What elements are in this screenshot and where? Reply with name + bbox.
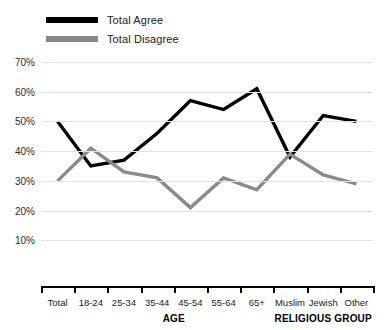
y-axis-tick-label: 30%: [15, 175, 35, 186]
x-axis-label-other: Other: [345, 297, 369, 308]
x-axis-label-25-34: 25-34: [112, 297, 136, 308]
legend-label-total-agree: Total Agree: [107, 14, 163, 26]
x-axis-tick: [273, 286, 275, 293]
x-axis-tick: [174, 286, 176, 293]
y-axis-tick-label: 40%: [15, 146, 35, 157]
x-axis-tick: [41, 286, 43, 293]
x-axis-label-35-44: 35-44: [145, 297, 169, 308]
chart-legend: Total Agree Total Disagree: [46, 10, 179, 48]
gridline: [41, 62, 373, 63]
x-axis-label-total: Total: [48, 297, 68, 308]
x-axis-label-muslim: Muslim: [275, 297, 305, 308]
gridline: [41, 181, 373, 182]
legend-item-total-agree: Total Agree: [46, 10, 179, 29]
x-axis-tick: [107, 286, 109, 293]
gridline: [41, 151, 373, 152]
x-axis-tick: [141, 286, 143, 293]
gridline: [41, 240, 373, 241]
x-axis-label-65plus: 65+: [249, 297, 265, 308]
legend-swatch-total-disagree: [46, 36, 98, 42]
x-axis-tick: [207, 286, 209, 293]
y-axis-tick-label: 50%: [15, 116, 35, 127]
x-axis-label-55-64: 55-64: [211, 297, 235, 308]
series-line-total-disagree: [58, 148, 357, 207]
legend-item-total-disagree: Total Disagree: [46, 29, 179, 48]
y-axis-tick-label: 10%: [15, 235, 35, 246]
x-axis-tick: [240, 286, 242, 293]
x-axis-label-jewish: Jewish: [309, 297, 338, 308]
y-axis-tick-label: 20%: [15, 205, 35, 216]
y-axis-tick-label: 70%: [15, 57, 35, 68]
x-axis-tick: [74, 286, 76, 293]
line-chart: Total Agree Total Disagree 10%20%30%40%5…: [0, 0, 384, 330]
y-axis-tick-label: 60%: [15, 86, 35, 97]
x-axis-tick: [307, 286, 309, 293]
x-axis-label-18-24: 18-24: [79, 297, 103, 308]
x-axis-tick: [340, 286, 342, 293]
gridline: [41, 121, 373, 122]
x-axis-label-45-54: 45-54: [178, 297, 202, 308]
plot-area: 10%20%30%40%50%60%70%: [41, 62, 373, 270]
legend-label-total-disagree: Total Disagree: [107, 33, 179, 45]
legend-swatch-total-agree: [46, 17, 98, 23]
group-label-age: AGE: [163, 313, 185, 324]
group-label-religious-group: RELIGIOUS GROUP: [274, 313, 371, 324]
x-axis-tick: [373, 286, 375, 293]
gridline: [41, 211, 373, 212]
series-lines: [41, 62, 373, 270]
gridline: [41, 92, 373, 93]
